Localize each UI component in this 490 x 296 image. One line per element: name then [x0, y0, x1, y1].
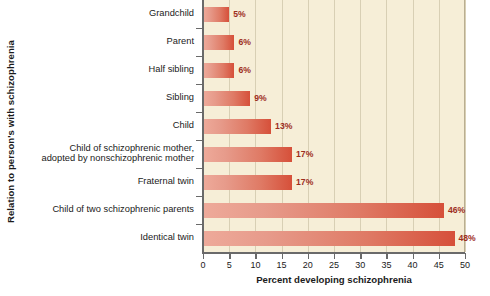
- y-axis-tick: [196, 28, 203, 29]
- bar: [203, 35, 234, 50]
- y-axis-tick: [196, 140, 203, 141]
- x-axis-tick-label: 20: [303, 260, 313, 270]
- x-axis-tick: [360, 253, 361, 259]
- bar-value-label: 5%: [233, 9, 245, 19]
- category-label: Child of schizophrenic mother, adopted b…: [42, 143, 194, 164]
- x-axis-tick: [413, 253, 414, 259]
- bar: [203, 7, 229, 22]
- category-label-column: GrandchildParentHalf siblingSiblingChild…: [20, 0, 198, 252]
- x-axis-tick: [229, 253, 230, 259]
- x-axis-tick: [465, 253, 466, 259]
- bar: [203, 231, 455, 246]
- y-axis-line: [202, 0, 204, 253]
- x-axis-tick: [308, 253, 309, 259]
- x-axis-tick-label: 5: [227, 260, 232, 270]
- y-axis-tick: [196, 84, 203, 85]
- bar-value-label: 46%: [448, 205, 465, 215]
- bar-value-label: 6%: [238, 65, 250, 75]
- y-axis-tick: [196, 56, 203, 57]
- category-label: Half sibling: [149, 64, 194, 75]
- y-axis-tick: [196, 112, 203, 113]
- category-label: Child of two schizophrenic parents: [52, 204, 194, 215]
- x-axis-tick: [282, 253, 283, 259]
- bar-value-label: 48%: [459, 233, 476, 243]
- x-axis-tick: [203, 253, 204, 259]
- y-axis-tick: [196, 196, 203, 197]
- bar-value-label: 9%: [254, 93, 266, 103]
- category-label: Sibling: [166, 92, 194, 103]
- bar-value-label: 6%: [238, 37, 250, 47]
- bar-value-label: 13%: [275, 121, 292, 131]
- x-axis-tick-label: 30: [355, 260, 365, 270]
- bar-value-label: 17%: [296, 177, 313, 187]
- x-axis-tick-label: 10: [250, 260, 260, 270]
- x-axis-tick-label: 0: [200, 260, 205, 270]
- category-label: Identical twin: [140, 232, 194, 243]
- x-axis-title: Percent developing schizophrenia: [203, 274, 465, 285]
- x-axis-tick-label: 25: [329, 260, 339, 270]
- x-axis-tick-label: 45: [434, 260, 444, 270]
- bar: [203, 91, 250, 106]
- x-axis-tick-label: 40: [408, 260, 418, 270]
- bar: [203, 203, 444, 218]
- x-axis-tick-label: 50: [460, 260, 470, 270]
- y-axis-tick: [196, 168, 203, 169]
- bar: [203, 63, 234, 78]
- bar-value-label: 17%: [296, 149, 313, 159]
- x-axis-tick: [334, 253, 335, 259]
- x-axis-tick-label: 35: [381, 260, 391, 270]
- bar: [203, 147, 292, 162]
- category-label: Grandchild: [149, 8, 194, 19]
- y-axis-tick: [196, 224, 203, 225]
- category-label: Parent: [167, 36, 194, 47]
- x-axis-tick: [386, 253, 387, 259]
- y-axis-title: Relation to person's with schizophrenia: [0, 0, 20, 262]
- x-axis-tick: [255, 253, 256, 259]
- y-axis-title-text: Relation to person's with schizophrenia: [5, 40, 16, 223]
- bar: [203, 119, 271, 134]
- bar: [203, 175, 292, 190]
- category-label: Child: [173, 120, 194, 131]
- x-axis-tick: [439, 253, 440, 259]
- category-label: Fraternal twin: [138, 176, 194, 187]
- bar-chart: Relation to person's with schizophrenia …: [0, 0, 490, 296]
- x-axis-tick-label: 15: [277, 260, 287, 270]
